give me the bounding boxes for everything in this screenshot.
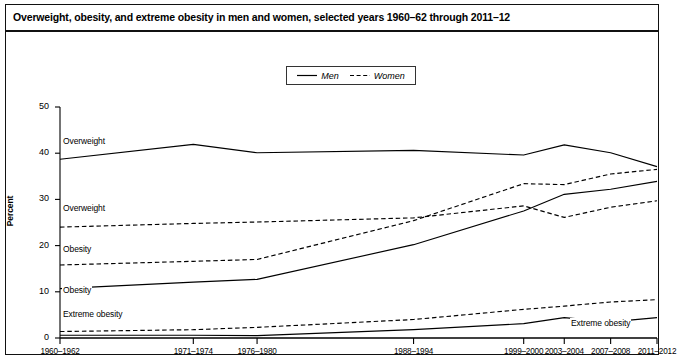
annotation-men-overweight: Overweight [62, 136, 106, 146]
y-tick-label-0: 0 [29, 332, 49, 342]
series-line-men-obesity [60, 181, 657, 288]
series-line-women-overweight [60, 201, 657, 227]
annotation-women-obesity: Obesity [62, 244, 92, 254]
y-tick-label-30: 30 [29, 193, 49, 203]
x-tick-label-2: 1976–1980 [222, 347, 292, 356]
series-line-women-obesity [60, 169, 657, 265]
x-tick-label-0: 1960–1962 [25, 347, 95, 356]
annotation-women-overweight: Overweight [62, 203, 106, 213]
x-tick-label-3: 1988–1994 [379, 347, 449, 356]
annotation-men-extreme-obesity: Extreme obesity [570, 318, 631, 328]
annotation-women-extreme-obesity: Extreme obesity [62, 309, 123, 319]
annotation-men-obesity: Obesity [62, 285, 92, 295]
y-tick-label-20: 20 [29, 240, 49, 250]
x-tick-label-7: 2011–2012 [622, 347, 681, 356]
series-line-women-extreme-obesity [60, 300, 657, 332]
y-tick-label-50: 50 [29, 101, 49, 111]
x-tick-label-1: 1971–1974 [158, 347, 228, 356]
data-series-lines [60, 144, 657, 335]
y-tick-label-10: 10 [29, 286, 49, 296]
axis-lines [60, 107, 657, 338]
x-axis-ticks [60, 338, 657, 344]
y-axis-ticks [55, 107, 60, 338]
series-line-men-overweight [60, 144, 657, 166]
series-line-men-extreme-obesity [60, 318, 657, 336]
y-tick-label-40: 40 [29, 147, 49, 157]
